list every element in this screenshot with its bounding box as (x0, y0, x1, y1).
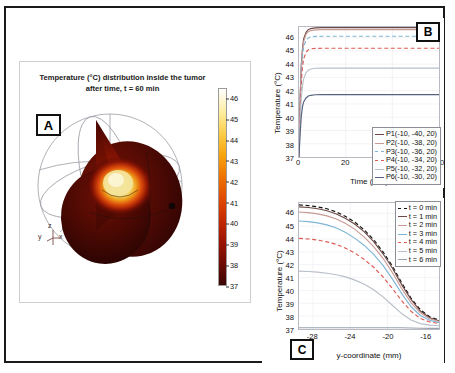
panel-a-title-line2: after time, t = 60 min (86, 84, 160, 93)
legend-swatch (375, 160, 384, 161)
panel-c-legend: t = 0 mint = 1 mint = 2 mint = 3 mint = … (395, 201, 441, 267)
y-tick-label: 38 (286, 312, 294, 321)
legend-swatch (375, 169, 384, 170)
legend-swatch (398, 251, 407, 252)
panel-a-title: Temperature (°C) distribution inside the… (30, 72, 215, 94)
y-tick-label: 43 (286, 247, 294, 256)
panel-b-container: Temperature (°C) 37383940414243444546 02… (262, 18, 444, 188)
legend-swatch (398, 225, 407, 226)
panel-b-ytick-labels: 37383940414243444546 (270, 26, 294, 158)
panel-label-c: C (290, 339, 314, 360)
legend-swatch (398, 259, 407, 260)
legend-swatch (375, 151, 384, 152)
legend-row: P6(-10, -30, 20) (375, 173, 437, 182)
y-tick-label: 46 (286, 32, 294, 41)
y-tick-label: 39 (286, 127, 294, 136)
x-tick-label: 20 (341, 158, 349, 167)
colorbar-tick: 37 (230, 282, 238, 291)
legend-swatch (398, 208, 407, 209)
y-tick-label: 41 (286, 100, 294, 109)
axis-triad: y z x (38, 222, 82, 248)
panel-c-xlabel: y-coordinate (mm) (298, 351, 440, 360)
colorbar-tick: 38 (230, 261, 238, 270)
y-tick-label: 39 (286, 299, 294, 308)
y-tick-label: 44 (286, 59, 294, 68)
y-tick-label: 42 (286, 260, 294, 269)
y-tick-label: 46 (286, 208, 294, 217)
colorbar-tick: 39 (230, 240, 238, 249)
y-tick-label: 40 (286, 286, 294, 295)
legend-label: t = 6 min (409, 256, 437, 265)
x-tick-label: -24 (345, 332, 356, 341)
y-tick-label: 44 (286, 234, 294, 243)
panel-a-title-line1: Temperature (°C) distribution inside the… (39, 73, 205, 82)
colorbar-tick: 40 (230, 219, 238, 228)
y-tick-label: 37 (286, 154, 294, 163)
colorbar-tick: 46 (230, 94, 238, 103)
panel-label-b: B (416, 22, 440, 42)
y-tick-label: 43 (286, 73, 294, 82)
y-tick-label: 42 (286, 86, 294, 95)
x-tick-label: 0 (296, 158, 300, 167)
legend-label: P6(-10, -30, 20) (386, 173, 437, 182)
y-tick-label: 41 (286, 273, 294, 282)
x-tick-label: -20 (382, 332, 393, 341)
tumor-marker-point (169, 203, 175, 209)
y-tick-label: 45 (286, 46, 294, 55)
legend-row: t = 6 min (398, 256, 437, 265)
panel-a-container: Temperature (°C) distribution inside the… (19, 61, 251, 303)
panel-b-legend: P1(-10, -40, 20)P2(-10, -38, 20)P3(-10, … (372, 127, 441, 185)
y-tick-label: 45 (286, 221, 294, 230)
colorbar-tick: 45 (230, 115, 238, 124)
legend-swatch (375, 177, 384, 178)
colorbar-tick: 43 (230, 156, 238, 165)
legend-swatch (375, 143, 384, 144)
colorbar-tick: 42 (230, 177, 238, 186)
y-tick-label: 40 (286, 113, 294, 122)
legend-swatch (398, 242, 407, 243)
colorbar-tick: 44 (230, 136, 238, 145)
y-tick-label: 37 (286, 326, 294, 335)
axis-triad-arrows (45, 228, 67, 248)
series-line-7 (299, 328, 439, 329)
y-tick-label: 38 (286, 140, 294, 149)
legend-swatch (375, 134, 384, 135)
legend-swatch (398, 216, 407, 217)
figure-outer-frame: Temperature (°C) distribution inside the… (4, 6, 445, 363)
colorbar-tick: 41 (230, 198, 238, 207)
series-line-6 (299, 271, 439, 326)
x-tick-label: -16 (420, 332, 431, 341)
panel-c-xtick-labels: -28-24-20-16 (298, 332, 440, 344)
tumor-hotspot-peak (108, 173, 124, 187)
panel-c-container: Temperature (°C) 37383940414243444546 -2… (262, 198, 444, 364)
colorbar: 46454443424140393837 (218, 88, 252, 286)
legend-swatch (398, 234, 407, 235)
axis-label-y: y (38, 233, 42, 240)
colorbar-gradient (218, 88, 227, 286)
colorbar-tick-labels: 46454443424140393837 (230, 88, 252, 286)
panel-label-a: A (36, 114, 61, 136)
panel-c-ytick-labels: 37383940414243444546 (270, 202, 294, 330)
